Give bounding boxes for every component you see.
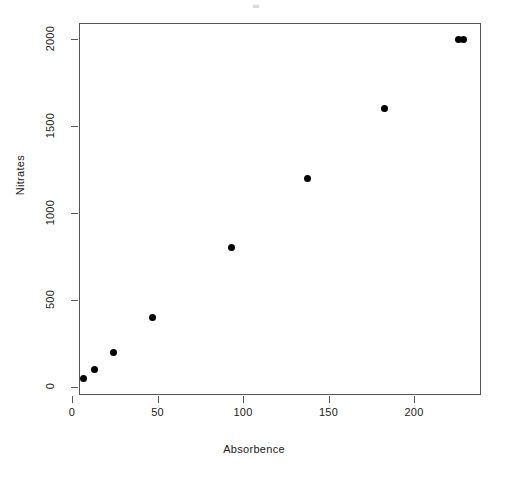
y-axis-tick (71, 213, 78, 214)
y-axis-tick (71, 300, 78, 301)
x-axis-tick-label: 100 (223, 406, 263, 418)
x-axis-tick (158, 396, 159, 403)
y-axis-tick-label: 500 (44, 290, 68, 309)
x-axis-tick (329, 396, 330, 403)
x-axis-tick-label: 200 (394, 406, 434, 418)
scatter-plot-figure: 0501001502000500100015002000 Absorbence … (0, 0, 508, 478)
x-axis-tick (414, 396, 415, 403)
y-axis-tick (71, 126, 78, 127)
plot-area-frame (79, 23, 481, 395)
y-axis-tick-label: 1000 (44, 200, 68, 225)
scan-artifact-speck (253, 5, 259, 8)
x-axis-tick-label: 50 (138, 406, 178, 418)
x-axis-tick-label: 0 (52, 406, 92, 418)
y-axis-tick (71, 39, 78, 40)
y-axis-tick-label: 1500 (44, 113, 68, 138)
y-axis-label: Nitrates (14, 155, 36, 195)
y-axis-tick-label: 0 (44, 383, 68, 389)
x-axis-label: Absorbence (0, 443, 508, 455)
y-axis-tick (71, 387, 78, 388)
y-axis-tick-label: 2000 (44, 26, 68, 51)
x-axis-tick (243, 396, 244, 403)
x-axis-tick-label: 150 (309, 406, 349, 418)
x-axis-tick (72, 396, 73, 403)
